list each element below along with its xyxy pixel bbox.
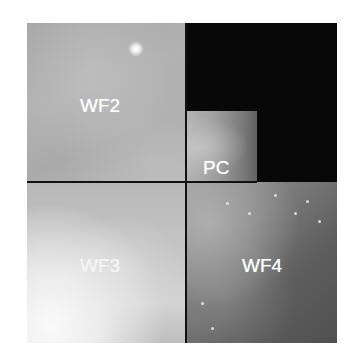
star-speck (211, 327, 214, 330)
star-speck (294, 212, 297, 215)
vertical-divider (185, 23, 187, 343)
star-speck (201, 302, 204, 305)
star-speck (274, 194, 277, 197)
star-speck (306, 200, 309, 203)
star-speck (248, 212, 251, 215)
chip-label-wf3: WF3 (80, 255, 120, 277)
wfpc2-mosaic: WF2 PC WF3 WF4 (27, 23, 337, 343)
horizontal-divider (27, 181, 257, 183)
star-speck (318, 220, 321, 223)
chip-label-wf4: WF4 (242, 255, 282, 277)
star-speck (226, 202, 229, 205)
chip-label-pc: PC (203, 157, 229, 179)
chip-label-wf2: WF2 (80, 95, 120, 117)
